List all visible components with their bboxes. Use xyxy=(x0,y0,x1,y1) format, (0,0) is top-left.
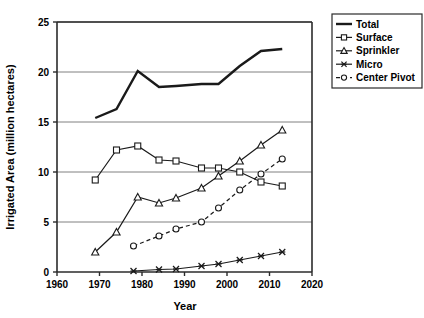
data-point-square xyxy=(199,165,205,171)
data-point-square xyxy=(237,169,243,175)
legend-item-label: Total xyxy=(356,19,379,30)
data-point-circle xyxy=(341,75,346,80)
x-tick-label: 2010 xyxy=(258,279,281,290)
data-point-circle xyxy=(237,187,243,193)
legend-item-label: Micro xyxy=(356,59,383,70)
data-point-circle xyxy=(258,171,264,177)
legend-item-label: Surface xyxy=(356,32,393,43)
legend-item-label: Sprinkler xyxy=(356,45,399,56)
x-tick-label: 1990 xyxy=(173,279,196,290)
x-tick-label: 1970 xyxy=(88,279,111,290)
y-tick-label: 0 xyxy=(43,267,49,278)
data-point-square xyxy=(92,177,98,183)
data-point-circle xyxy=(199,219,205,225)
x-tick-label: 2000 xyxy=(216,279,239,290)
data-point-square xyxy=(258,179,264,185)
chart-figure: 05101520251960197019801990200020102020 Y… xyxy=(0,0,424,318)
y-axis-title: Irrigated Area (million hectares) xyxy=(4,64,16,230)
y-tick-label: 10 xyxy=(38,167,50,178)
data-point-square xyxy=(173,158,179,164)
data-point-square xyxy=(341,35,346,40)
data-point-circle xyxy=(131,243,137,249)
data-point-square xyxy=(114,147,120,153)
chart-legend: TotalSurfaceSprinklerMicroCenter Pivot xyxy=(332,14,422,88)
y-tick-label: 20 xyxy=(38,67,50,78)
x-tick-label: 1980 xyxy=(131,279,154,290)
y-tick-label: 25 xyxy=(38,17,50,28)
data-point-square xyxy=(216,165,222,171)
x-tick-label: 1960 xyxy=(46,279,69,290)
x-axis-title: Year xyxy=(173,300,197,312)
data-point-circle xyxy=(156,233,162,239)
data-point-circle xyxy=(279,156,285,162)
data-point-square xyxy=(135,143,141,149)
x-tick-label: 2020 xyxy=(301,279,324,290)
data-point-circle xyxy=(173,226,179,232)
legend-item-label: Center Pivot xyxy=(356,72,416,83)
data-point-square xyxy=(156,157,162,163)
y-tick-label: 15 xyxy=(38,117,50,128)
y-tick-label: 5 xyxy=(43,217,49,228)
data-point-square xyxy=(279,183,285,189)
chart-svg: 05101520251960197019801990200020102020 Y… xyxy=(0,0,424,318)
data-point-circle xyxy=(216,205,222,211)
